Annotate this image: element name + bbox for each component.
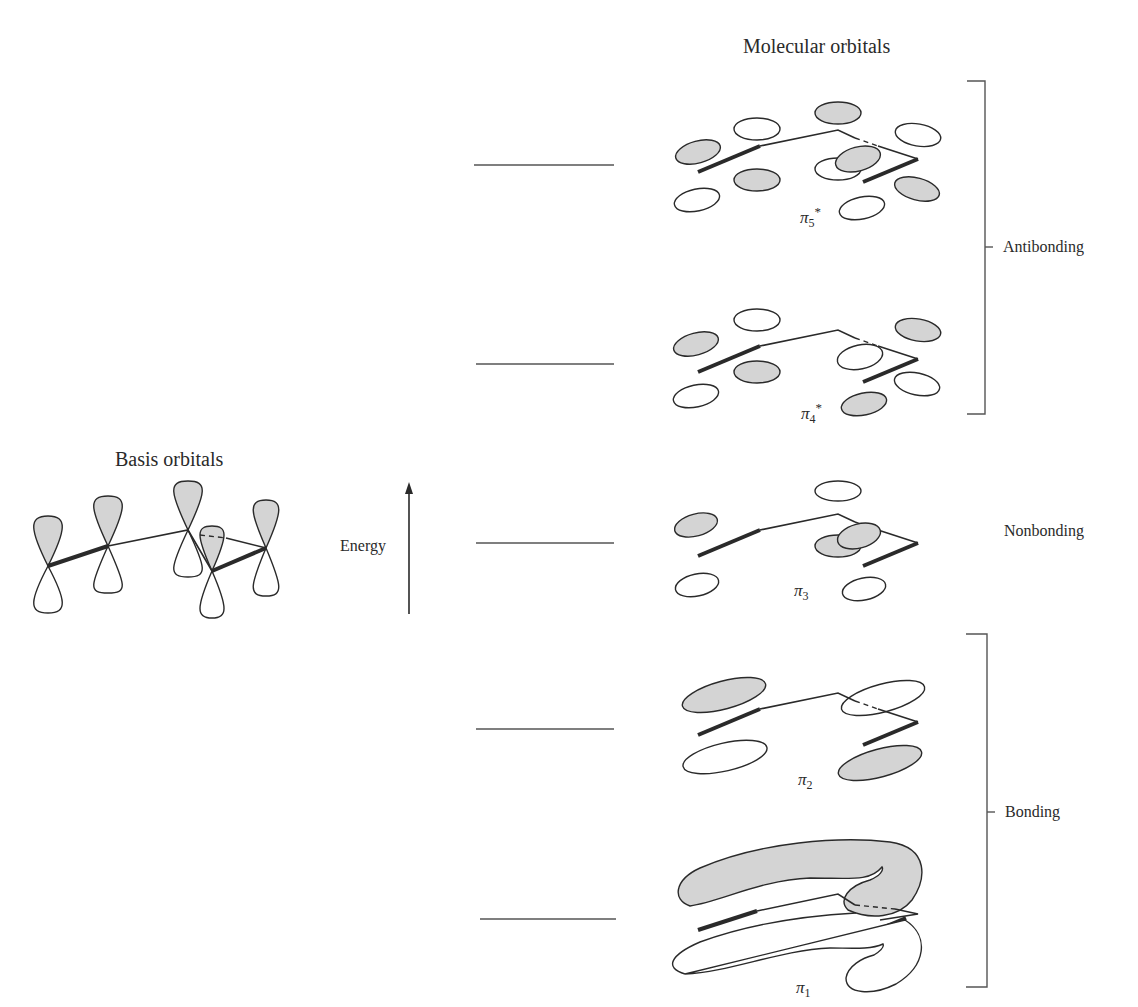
label-pi3: π3 bbox=[794, 581, 809, 604]
energy-axis-label: Energy bbox=[340, 537, 386, 555]
label-pi1: π1 bbox=[796, 978, 811, 1001]
label-pi5: π5* bbox=[800, 204, 821, 231]
p-orbital-4 bbox=[200, 526, 224, 618]
energy-arrow bbox=[405, 482, 413, 614]
mo-pi1 bbox=[673, 840, 922, 992]
molecular-orbitals-title: Molecular orbitals bbox=[743, 35, 890, 58]
basis-orbitals-title: Basis orbitals bbox=[115, 448, 223, 471]
basis-orbitals bbox=[34, 481, 279, 618]
p-orbital-3 bbox=[174, 481, 203, 577]
label-pi4: π4* bbox=[801, 400, 822, 427]
nonbonding-label: Nonbonding bbox=[1004, 522, 1084, 540]
antibonding-label: Antibonding bbox=[1003, 238, 1084, 256]
bonding-label: Bonding bbox=[1005, 803, 1060, 821]
bonding-bracket bbox=[966, 634, 995, 987]
orbital-diagram bbox=[0, 0, 1138, 1007]
antibonding-bracket bbox=[967, 81, 993, 414]
label-pi2: π2 bbox=[798, 770, 813, 793]
energy-levels bbox=[474, 165, 616, 919]
